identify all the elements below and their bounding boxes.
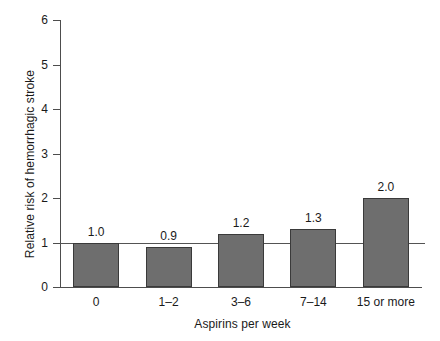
- bar: [363, 198, 409, 287]
- y-axis-tick-label: 2: [30, 192, 48, 204]
- y-axis-tick-label: 5: [30, 59, 48, 71]
- x-axis-line: [60, 287, 422, 288]
- y-axis-tick: [53, 20, 60, 21]
- y-axis-tick: [53, 154, 60, 155]
- plot-area: 1.00.91.21.32.0: [60, 20, 422, 287]
- bar-value-label: 2.0: [356, 181, 416, 193]
- bar: [290, 229, 336, 287]
- y-axis-tick-label: 6: [30, 14, 48, 26]
- y-axis-tick-label: 4: [30, 103, 48, 115]
- x-axis-tick-label: 15 or more: [336, 296, 436, 308]
- bar-chart-figure: Relative risk of hemorrhagic stroke 0123…: [0, 0, 440, 341]
- y-axis-tick: [53, 243, 60, 244]
- bar: [146, 247, 192, 287]
- bar-value-label: 1.2: [211, 217, 271, 229]
- y-axis-tick: [53, 198, 60, 199]
- y-axis-tick: [53, 109, 60, 110]
- bar-value-label: 1.3: [283, 212, 343, 224]
- y-axis-tick: [53, 287, 60, 288]
- y-axis-tick-label: 0: [30, 281, 48, 293]
- x-axis-title: Aspirins per week: [60, 317, 425, 331]
- y-axis-tick-label: 3: [30, 148, 48, 160]
- bar-value-label: 1.0: [66, 226, 126, 238]
- y-axis-tick: [53, 65, 60, 66]
- y-axis-tick-label: 1: [30, 237, 48, 249]
- bar-value-label: 0.9: [139, 230, 199, 242]
- bar: [218, 234, 264, 287]
- bar: [73, 243, 119, 288]
